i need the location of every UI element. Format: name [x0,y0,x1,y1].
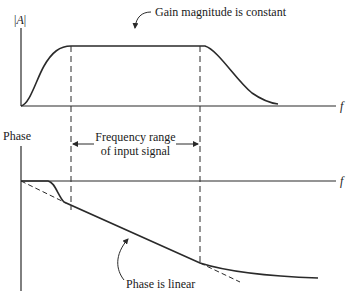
phase-annotation-arrow [118,239,128,280]
range-label-line2: of input signal [101,144,171,158]
gain-annotation-arrow [135,12,151,28]
gain-curve [21,46,278,106]
frequency-range-annotation: Frequency range of input signal [73,130,198,158]
phase-x-axis-label: f [340,174,345,188]
gain-plot: |A| f Gain magnitude is constant [14,5,345,113]
gain-annotation: Gain magnitude is constant [155,5,287,19]
phase-annotation: Phase is linear [126,277,195,291]
gain-x-axis-label: f [340,99,345,113]
amplifier-response-diagram: |A| f Gain magnitude is constant Frequen… [0,0,354,297]
gain-y-axis-label: |A| [14,13,26,27]
phase-plot: Phase f Phase is linear [3,129,345,291]
range-label-line1: Frequency range [95,130,175,144]
phase-y-axis-label: Phase [3,129,31,143]
phase-linear-extension-end [200,263,240,282]
phase-linear-extension-start [21,181,66,203]
phase-curve [21,181,318,278]
